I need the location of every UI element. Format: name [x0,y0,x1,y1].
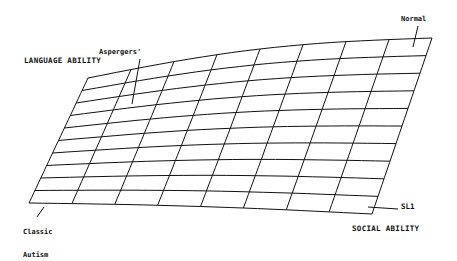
grid-column-line [158,55,217,206]
classic-autism-line2: Autism [23,252,53,260]
grid-row-line [88,38,432,78]
normal-label: Normal [401,16,426,24]
language-ability-axis-label: LANGUAGE ABILITY [24,57,101,65]
grid-column-line [29,78,88,203]
grid-column-line [72,70,131,204]
social-ability-axis-label: SOCIAL ABILITY [352,225,419,233]
surface-label-sl1: SL1 [401,203,415,211]
aspergers-label: Aspergers' [99,49,141,57]
normal-pointer [413,26,418,47]
classic-autism-line1: Classic [23,229,53,237]
grid-row-line [82,56,426,91]
classic-autism-label: Classic Autism [23,214,53,261]
grid-row-line [29,203,372,214]
sl1-pointer [368,207,398,209]
